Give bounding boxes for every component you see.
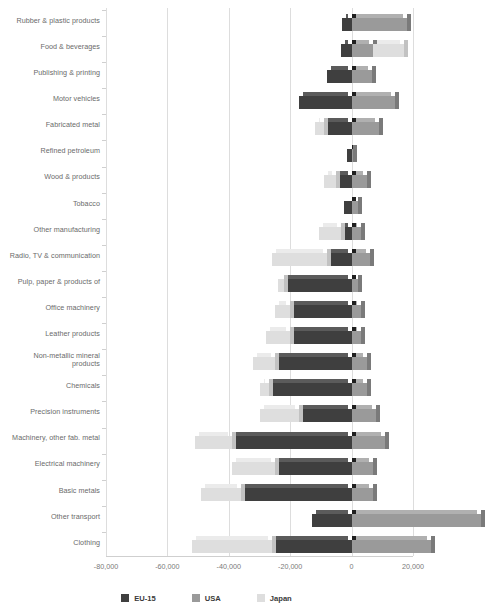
bar-segment-eu-15[interactable] [275,357,352,370]
bar-row[interactable] [106,405,413,418]
bar-row[interactable] [106,536,413,549]
category-tick [102,532,106,533]
bar-row[interactable] [106,171,413,184]
bar-segment-japan[interactable] [315,122,324,135]
bar-row[interactable] [106,40,413,53]
bar-segment-eu-15[interactable] [312,514,352,527]
bar-side-face [290,327,294,344]
bar-segment-eu-15[interactable] [290,331,351,344]
bar-segment-japan[interactable] [260,383,269,396]
bar-segment-eu-15[interactable] [324,122,352,135]
bar-segment-japan[interactable] [260,409,300,422]
bar-segment-usa[interactable] [352,253,370,266]
bar-row[interactable] [106,353,413,366]
bar-side-face [353,145,357,162]
bar-side-face [232,432,236,449]
bar-segment-usa[interactable] [352,18,407,31]
bar-segment-eu-15[interactable] [290,305,351,318]
bar-segment-japan[interactable] [232,462,275,475]
bar-segment-japan[interactable] [373,44,404,57]
bar-row[interactable] [106,118,413,131]
bar-row[interactable] [106,327,413,340]
bar-segment-eu-15[interactable] [241,488,352,501]
bar-front-face [275,462,352,475]
bar-segment-japan[interactable] [272,253,327,266]
bar-front-face [352,462,373,475]
bar-segment-usa[interactable] [352,279,358,292]
bar-segment-japan[interactable] [192,540,272,553]
legend-item[interactable]: Japan [257,594,292,603]
bar-row[interactable] [106,510,413,523]
axis-floor-line [106,556,413,557]
bar-segment-eu-15[interactable] [275,462,352,475]
bar-front-face [352,18,407,31]
bar-segment-eu-15[interactable] [232,436,352,449]
bar-segment-eu-15[interactable] [344,201,352,214]
bar-row[interactable] [106,379,413,392]
bar-segment-japan[interactable] [319,227,340,240]
bar-side-face [385,432,389,449]
bar-segment-eu-15[interactable] [284,279,352,292]
bar-segment-japan[interactable] [266,331,291,344]
bar-segment-eu-15[interactable] [269,383,352,396]
bar-front-face [352,488,373,501]
bar-row[interactable] [106,92,413,105]
bar-row[interactable] [106,223,413,236]
bar-side-face [358,197,362,214]
bar-segment-usa[interactable] [352,462,373,475]
bar-row[interactable] [106,14,413,27]
bar-segment-japan[interactable] [253,357,274,370]
bar-side-face [373,484,377,501]
bar-row[interactable] [106,458,413,471]
bar-side-face [376,405,380,422]
bar-segment-usa[interactable] [352,201,358,214]
bar-row[interactable] [106,197,413,210]
bar-row[interactable] [106,249,413,262]
bar-row[interactable] [106,484,413,497]
bar-row[interactable] [106,66,413,79]
bar-front-face [352,122,380,135]
bar-segment-japan[interactable] [324,175,336,188]
bar-segment-usa[interactable] [352,44,373,57]
bar-segment-eu-15[interactable] [341,44,352,57]
bar-row[interactable] [106,275,413,288]
bar-row[interactable] [106,432,413,445]
legend-item[interactable]: USA [192,594,221,603]
bar-segment-usa[interactable] [352,305,361,318]
bar-segment-usa[interactable] [352,70,372,83]
bar-segment-usa[interactable] [352,331,361,344]
category-label: Leather products [45,330,100,338]
bar-segment-japan[interactable] [201,488,241,501]
bar-segment-usa[interactable] [352,540,432,553]
bar-segment-usa[interactable] [352,96,395,109]
bar-segment-usa[interactable] [352,122,380,135]
category-label: Office machinery [45,304,100,312]
bar-front-face [373,44,404,57]
bar-segment-usa[interactable] [352,436,386,449]
bar-segment-usa[interactable] [352,357,367,370]
legend-item[interactable]: EU-15 [121,594,156,603]
bar-segment-eu-15[interactable] [299,409,351,422]
bar-row[interactable] [106,301,413,314]
bar-segment-japan[interactable] [278,279,284,292]
chart-legend: EU-15USAJapan [0,588,413,608]
bar-segment-eu-15[interactable] [299,96,351,109]
bar-segment-japan[interactable] [195,436,232,449]
bar-front-face [232,462,275,475]
bar-segment-usa[interactable] [352,149,354,162]
bar-segment-eu-15[interactable] [272,540,352,553]
bar-segment-usa[interactable] [352,488,373,501]
bar-segment-eu-15[interactable] [342,18,351,31]
bar-segment-usa[interactable] [352,514,481,527]
bar-side-face [284,275,288,292]
bar-segment-japan[interactable] [275,305,290,318]
category-label: Chemicals [66,382,100,390]
bar-segment-usa[interactable] [352,409,377,422]
bar-segment-usa[interactable] [352,383,367,396]
bar-front-face [195,436,232,449]
bar-segment-usa[interactable] [352,175,367,188]
bar-segment-eu-15[interactable] [327,70,352,83]
category-label: Rubber & plastic products [16,17,100,25]
bar-segment-usa[interactable] [352,227,361,240]
bar-row[interactable] [106,145,413,158]
